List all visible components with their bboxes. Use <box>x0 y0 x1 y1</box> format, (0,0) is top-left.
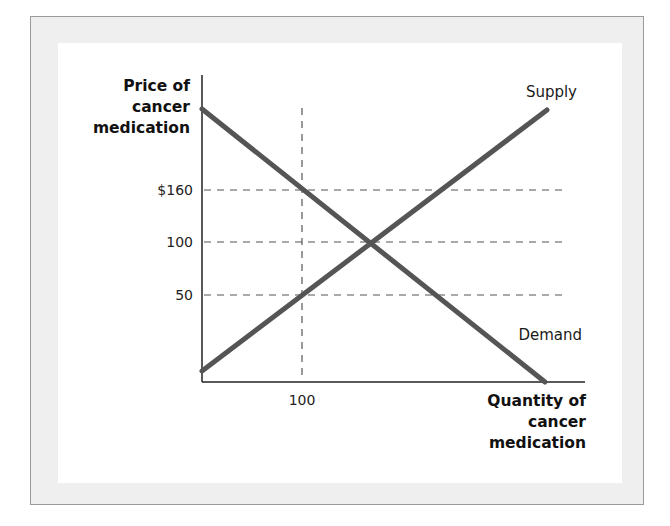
y-axis-label-line-2: cancer <box>132 98 190 116</box>
y-tick-100: 100 <box>166 234 193 250</box>
x-tick-100: 100 <box>289 392 316 408</box>
x-axis-label-line-2: cancer <box>528 413 586 431</box>
y-tick-50: 50 <box>175 287 193 303</box>
y-tick-160: $160 <box>157 182 193 198</box>
x-axis-label-line-1: Quantity of <box>487 392 586 410</box>
reference-lines <box>204 108 567 380</box>
supply-label: Supply <box>526 83 577 101</box>
demand-label: Demand <box>518 326 582 344</box>
y-axis-label-line-3: medication <box>93 119 190 137</box>
supply-demand-chart: Price of cancer medication $160 100 50 1… <box>0 0 670 526</box>
x-axis-label-line-3: medication <box>489 434 586 452</box>
y-axis-label-line-1: Price of <box>123 77 190 95</box>
